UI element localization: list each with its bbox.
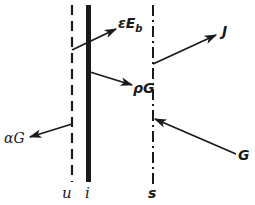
label-reflected: ρG [133,80,155,96]
surface-i-solid-bar [86,5,91,182]
label-radiosity: J [219,23,227,39]
arrow-irradiation [155,119,236,154]
arrow-reflected [90,72,132,85]
label-emitted: εEb [118,15,143,34]
label-irradiation: G [238,147,250,163]
label-surface-u: u [62,184,72,202]
label-absorbed: αG [4,130,25,146]
label-surface-s: s [148,185,156,201]
arrow-absorbed [30,124,72,137]
arrow-emitted [72,29,116,50]
energy-balance-diagram: εEb ρG αG J G u i s [0,0,255,205]
arrow-radiosity [153,35,216,64]
label-surface-i: i [85,184,90,202]
